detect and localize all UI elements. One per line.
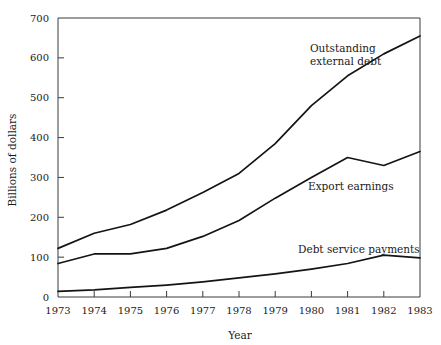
y-tick-label: 200 — [30, 212, 49, 223]
series-annotation-0: external debt — [310, 55, 382, 67]
x-tick-label: 1980 — [299, 305, 324, 316]
series-annotation-1: Export earnings — [308, 180, 394, 192]
x-tick-label: 1981 — [335, 305, 360, 316]
x-tick-label: 1983 — [407, 305, 432, 316]
x-tick-label: 1979 — [262, 305, 287, 316]
x-tick-label: 1976 — [154, 305, 179, 316]
x-tick-label: 1982 — [371, 305, 396, 316]
series-annotation-2: Debt service payments — [298, 243, 420, 255]
x-tick-label: 1975 — [118, 305, 143, 316]
chart-container: 0100200300400500600700 19731974197519761… — [0, 0, 441, 345]
line-chart: 0100200300400500600700 19731974197519761… — [0, 0, 441, 345]
x-axis-tick-labels: 1973197419751976197719781979198019811982… — [45, 305, 432, 316]
y-tick-label: 500 — [30, 92, 49, 103]
y-tick-label: 0 — [43, 292, 49, 303]
x-axis-title: Year — [227, 329, 252, 341]
x-tick-label: 1978 — [226, 305, 251, 316]
y-tick-label: 100 — [30, 252, 49, 263]
y-axis-title: Billions of dollars — [6, 114, 18, 207]
y-tick-label: 700 — [30, 13, 49, 24]
y-tick-label: 600 — [30, 52, 49, 63]
y-tick-label: 400 — [30, 132, 49, 143]
x-tick-label: 1977 — [190, 305, 215, 316]
x-tick-label: 1974 — [81, 305, 106, 316]
y-tick-label: 300 — [30, 172, 49, 183]
x-tick-label: 1973 — [45, 305, 70, 316]
series-annotation-0: Outstanding — [310, 42, 376, 54]
